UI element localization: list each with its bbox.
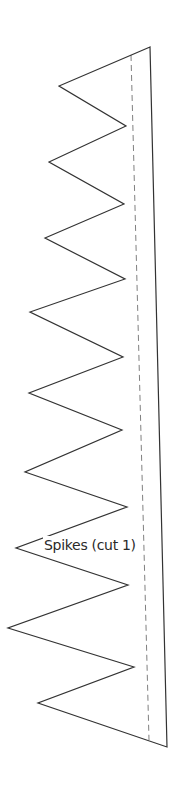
fold-dashed-line bbox=[131, 55, 149, 740]
spikes-cut-outline bbox=[8, 47, 167, 747]
pattern-piece-label: Spikes (cut 1) bbox=[43, 536, 137, 554]
spikes-pattern-diagram bbox=[0, 0, 180, 796]
